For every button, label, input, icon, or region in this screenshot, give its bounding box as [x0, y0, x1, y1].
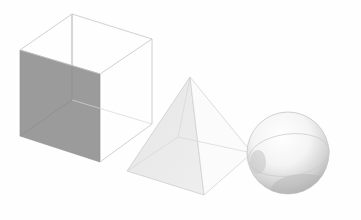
- cube-shaded-face: [20, 50, 100, 162]
- cube-shape: [20, 14, 152, 162]
- sphere-shape: [246, 112, 339, 206]
- pyramid-shape: [127, 77, 252, 195]
- diagram-canvas: [0, 0, 361, 220]
- shapes-drawing: [0, 0, 361, 220]
